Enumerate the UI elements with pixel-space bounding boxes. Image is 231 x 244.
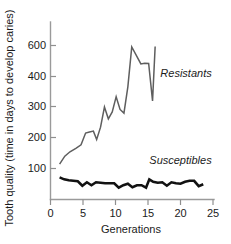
y-tick-labels: 600 400 300 200 100 [28, 39, 46, 174]
line-series-susceptibles [60, 177, 204, 187]
x-tick-label: 20 [174, 207, 186, 219]
x-tick-label: 10 [109, 207, 121, 219]
x-tick-label: 15 [142, 207, 154, 219]
series-label-resistants: Resistants [160, 67, 212, 79]
line-series-resistants [60, 46, 156, 164]
y-tick-marks [51, 46, 57, 169]
x-tick-label: 5 [80, 207, 86, 219]
x-tick-label: 25 [207, 207, 219, 219]
x-axis-title: Generations [101, 223, 161, 235]
x-tick-label: 0 [47, 207, 53, 219]
x-tick-marks [51, 200, 214, 206]
y-tick-label: 600 [28, 39, 46, 51]
series-label-susceptibles: Susceptibles [149, 154, 212, 166]
x-tick-labels: 0 5 10 15 20 25 [47, 207, 219, 219]
y-tick-label: 200 [28, 131, 46, 143]
y-tick-label: 100 [28, 162, 46, 174]
y-tick-label: 300 [28, 100, 46, 112]
y-tick-label: 400 [28, 70, 46, 82]
chart-figure: 600 400 300 200 100 0 5 10 15 20 25 Gene… [0, 0, 231, 244]
chart-plot-area: 600 400 300 200 100 0 5 10 15 20 25 Gene… [0, 0, 231, 244]
y-axis-title: Tooth quality (time in days to develop c… [3, 9, 15, 226]
